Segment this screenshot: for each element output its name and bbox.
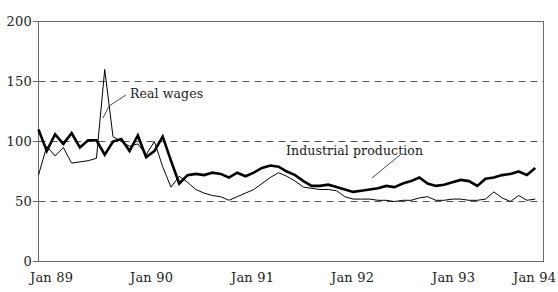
- xtick-label-jan-92: Jan 92: [331, 270, 374, 285]
- xtick-label-jan-89: Jan 89: [30, 270, 73, 285]
- xtick-label-jan-94: Jan 94: [513, 270, 556, 285]
- line-chart-canvas: [0, 0, 558, 292]
- ytick-label-150: 150: [0, 74, 32, 89]
- chart-figure: 200 150 100 50 0 Jan 89 Jan 90 Jan 91 Ja…: [0, 0, 558, 292]
- xtick-label-jan-91: Jan 91: [231, 270, 274, 285]
- annotation-real-wages: Real wages: [130, 86, 203, 101]
- ytick-label-100: 100: [0, 134, 32, 149]
- ytick-label-0: 0: [0, 254, 32, 269]
- y-axis-ticks: [33, 22, 39, 262]
- ytick-label-50: 50: [0, 194, 32, 209]
- annotation-industrial-production: Industrial production: [286, 143, 423, 158]
- xtick-label-jan-93: Jan 93: [432, 270, 475, 285]
- ytick-label-200: 200: [0, 14, 32, 29]
- xtick-label-jan-90: Jan 90: [130, 270, 173, 285]
